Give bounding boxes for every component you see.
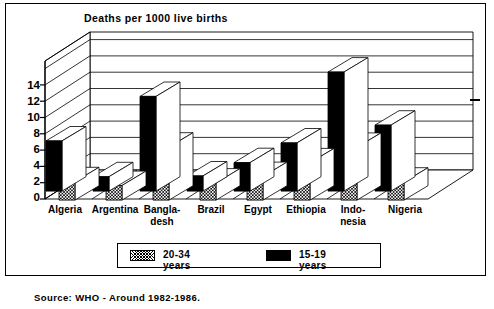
x-label-line1: Brazil xyxy=(197,204,224,215)
solid-swatch-icon xyxy=(266,250,291,261)
chart-legend: 20-34 years 15-19 years xyxy=(117,243,381,268)
hatch-swatch-icon xyxy=(130,250,155,261)
chart-canvas: Deaths per 1000 live births Source: WHO … xyxy=(0,0,494,309)
x-label-line1: Ethiopia xyxy=(286,204,325,215)
x-label-line1: Algeria xyxy=(48,204,82,215)
x-label-line2: nesia xyxy=(340,216,366,227)
x-tick-label-bangladesh: Bangla- desh xyxy=(134,204,190,227)
x-label-line1: Nigeria xyxy=(388,204,422,215)
legend-label: 20-34 years xyxy=(163,249,191,271)
x-label-line1: Bangla- xyxy=(144,204,181,215)
x-label-line1: Indo- xyxy=(341,204,365,215)
legend-label: 15-19 years xyxy=(299,249,327,271)
x-label-line2: desh xyxy=(150,216,173,227)
x-label-line1: Egypt xyxy=(244,204,272,215)
x-label-line1: Argentina xyxy=(92,204,139,215)
x-tick-label-nigeria: Nigeria xyxy=(376,204,434,216)
x-tick-label-indonesia: Indo- nesia xyxy=(327,204,379,227)
